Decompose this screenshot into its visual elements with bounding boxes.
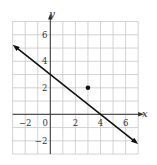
- coordinate-plane: −20246642−2 x y: [0, 0, 157, 165]
- x-tick-label: 6: [123, 118, 128, 128]
- x-tick-label: 4: [98, 118, 103, 128]
- x-tick-label: 2: [73, 118, 78, 128]
- x-tick-label: −2: [19, 118, 32, 128]
- x-tick-label: 0: [43, 118, 48, 128]
- y-tick-label: 2: [42, 83, 47, 93]
- x-axis-label: x: [142, 108, 148, 119]
- grid: [13, 22, 138, 155]
- y-tick-label: 6: [42, 30, 47, 40]
- y-tick-label: −2: [35, 136, 48, 146]
- y-tick-label: 4: [42, 56, 47, 66]
- point: [86, 86, 91, 91]
- y-axis-label: y: [48, 8, 55, 19]
